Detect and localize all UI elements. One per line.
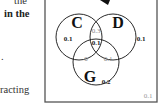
arrow-pointer-icon [100, 0, 110, 5]
venn-diagram: C D G 0.1 0.1 0.2 0.3 0.1 0 0.1 0.1 [0, 0, 161, 108]
value-d-g: 0.1 [104, 55, 113, 63]
value-g-only: 0.2 [102, 78, 111, 86]
label-d: D [112, 14, 124, 31]
label-c: C [71, 14, 83, 31]
value-d-only: 0.1 [137, 35, 146, 43]
value-c-d-g: 0.1 [92, 39, 101, 47]
value-outside: 0.1 [144, 92, 153, 100]
label-g: G [84, 68, 97, 85]
value-c-g: 0 [84, 55, 88, 63]
value-c-d: 0.3 [92, 27, 101, 35]
diagram-frame [45, 0, 157, 102]
value-c-only: 0.1 [64, 35, 73, 43]
